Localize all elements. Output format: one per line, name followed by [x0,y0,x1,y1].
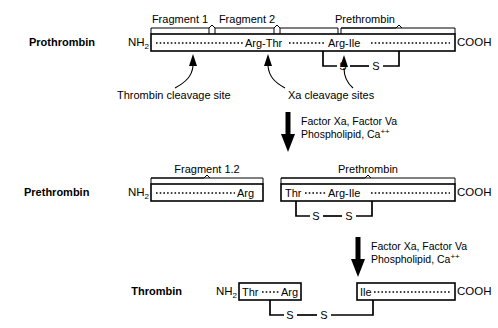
sulfur-atom-right: S [372,60,379,72]
condition-1: Factor Xa, Factor Va Phospholipid, Ca++ [281,112,397,152]
prethrombin-row: Prethrombin NH2 Fragment 1.2 Prethrombin… [24,163,492,222]
prothrombin-row-label: Prothrombin [29,36,95,48]
condition-2-arrowhead [351,259,365,277]
prothrombin-disulfide-bridge: S S [323,51,399,72]
thrombin-disulfide-bridge: S S [270,300,373,321]
sulfur-atom-right-3: S [320,309,327,321]
prethrombin-bracket-group [151,175,455,184]
thrombin-row-label: Thrombin [131,285,182,297]
condition-2-line-2: Phospholipid, Ca++ [371,252,460,265]
fragment-1-2-label: Fragment 1.2 [174,163,239,175]
condition-1-line-1: Factor Xa, Factor Va [301,115,397,127]
thrombin-heavy-chain-box [357,283,455,300]
fragment-1-label: Fragment 1 [152,13,208,25]
sulfur-atom-left-3: S [286,309,293,321]
thrombin-arg: Arg [281,286,298,298]
thrombin-c-terminus: COOH [457,285,492,297]
thrombin-thr: Thr [242,286,259,298]
xa-cleavage-arrowhead-left [264,54,272,66]
thrombin-cleavage-arrowhead [189,54,197,66]
condition-1-line-2: Phospholipid, Ca++ [301,127,390,140]
xa-cleavage-note: Xa cleavage sites [288,89,375,101]
prothrombin-activation-diagram: Prothrombin NH2 Fragment 1 Fragment 2 Pr… [0,0,498,328]
cleavage-arrow-group [175,54,353,88]
condition-2-line-1: Factor Xa, Factor Va [371,240,467,252]
prethrombin-thr: Thr [285,187,302,199]
thrombin-cleavage-note: Thrombin cleavage site [117,89,231,101]
thrombin-ile: Ile [360,286,372,298]
sulfur-atom-right-2: S [345,210,352,222]
prethrombin-segment-label-2: Prethrombin [338,163,398,175]
condition-1-arrowhead [281,134,295,152]
thrombin-n-terminus: NH2 [216,285,238,300]
arg-ile-site: Arg-Ile [328,37,360,49]
prothrombin-bracket-group [151,25,455,34]
prethrombin-n-terminus: NH2 [128,186,150,201]
prethrombin-segment-label: Prethrombin [335,13,395,25]
prethrombin-box [281,184,455,201]
prethrombin-c-terminus: COOH [457,186,492,198]
fragment-2-label: Fragment 2 [219,13,275,25]
prothrombin-row: Prothrombin NH2 Fragment 1 Fragment 2 Pr… [29,13,492,101]
sulfur-atom-left-2: S [312,210,319,222]
arg-thr-site: Arg-Thr [245,37,283,49]
fragment-1-2-arg: Arg [237,187,254,199]
prethrombin-arg-ile: Arg-Ile [328,187,360,199]
prethrombin-disulfide-bridge: S S [296,201,372,222]
prothrombin-n-terminus: NH2 [128,36,150,51]
prothrombin-c-terminus: COOH [457,36,492,48]
thrombin-row: Thrombin NH2 Thr Arg Ile COOH S S [131,283,491,321]
condition-2: Factor Xa, Factor Va Phospholipid, Ca++ [351,237,467,277]
prethrombin-row-label: Prethrombin [24,186,90,198]
